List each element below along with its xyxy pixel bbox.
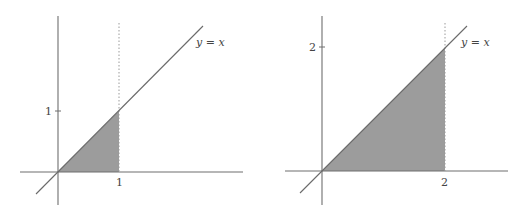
left-y-tick-label: 1 xyxy=(45,105,52,118)
left-plot: 1 1 y = x xyxy=(20,16,243,205)
left-x-tick-label: 1 xyxy=(116,176,123,189)
right-plot: 2 2 y = x xyxy=(285,16,508,205)
right-line-label: y = x xyxy=(460,36,490,49)
diagram-canvas: 1 1 y = x 2 2 y = x xyxy=(0,0,521,216)
right-y-tick-label: 2 xyxy=(309,41,316,54)
left-line-label: y = x xyxy=(195,36,225,49)
right-x-tick-label: 2 xyxy=(441,176,448,189)
